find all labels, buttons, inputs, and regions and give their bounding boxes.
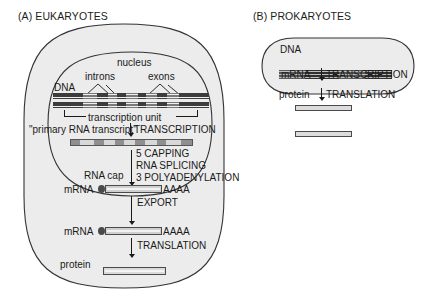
panel-b-title: (B) PROKARYOTES xyxy=(253,10,351,22)
mrna-cytosolic-bar xyxy=(105,227,162,235)
protein-bar-prokaryote xyxy=(295,131,352,137)
dna-label-prokaryote: DNA xyxy=(280,44,301,55)
dna-strand-top xyxy=(53,93,209,99)
mrna-bar-prokaryote xyxy=(295,105,352,111)
rna-processing-arrow xyxy=(131,150,132,186)
nucleus-label: nucleus xyxy=(117,57,151,68)
transcription-arrow-prokaryote xyxy=(321,68,322,81)
translation-step-label-prokaryote: TRANSLATION xyxy=(326,89,395,100)
translation-step-label-eukaryote: TRANSLATION xyxy=(137,240,206,251)
processing-step-polyadenylation: 3 POLYADENYLATION xyxy=(136,172,239,183)
mrna-label-nuclear: mRNA xyxy=(64,184,93,195)
mrna-cytosolic xyxy=(105,227,165,236)
poly-a-tail-cytosolic: AAAA xyxy=(163,226,190,237)
transcription-unit-label: transcription unit xyxy=(88,112,161,123)
protein-bar-eukaryote xyxy=(103,267,166,275)
mrna-nuclear-bar xyxy=(105,185,162,193)
dna-duplex-eukaryote xyxy=(53,93,209,108)
exons-label: exons xyxy=(148,71,175,82)
mrna-label-cytosolic: mRNA xyxy=(64,226,93,237)
translation-arrow-eukaryote xyxy=(131,238,132,258)
dna-label-eukaryote: DNA xyxy=(54,82,75,93)
primary-rna-transcript-label: "primary RNA transcript" xyxy=(29,124,137,135)
translation-arrow-prokaryote xyxy=(321,88,322,101)
transcription-step-label-prokaryote: TRANSCRIPTION xyxy=(326,69,408,80)
protein-label-eukaryote: protein xyxy=(60,259,91,270)
panel-a-title: (A) EUKARYOTES xyxy=(18,10,108,22)
export-step-label: EXPORT xyxy=(137,197,178,208)
processing-step-capping: 5 CAPPING xyxy=(136,148,239,159)
mrna-nuclear xyxy=(105,185,165,194)
poly-a-tail-nuclear: AAAA xyxy=(163,184,190,195)
mrna-label-prokaryote: mRNA xyxy=(281,69,310,80)
introns-label: introns xyxy=(85,71,115,82)
rna-cap-label: RNA cap xyxy=(84,170,123,181)
rna-processing-steps: 5 CAPPING RNA SPLICING 3 POLYADENYLATION xyxy=(136,148,239,183)
transcription-step-label: TRANSCRIPTION xyxy=(134,124,216,135)
processing-step-splicing: RNA SPLICING xyxy=(136,160,239,171)
dna-strand-bottom xyxy=(53,102,209,108)
transcription-arrow xyxy=(130,123,131,137)
export-arrow xyxy=(131,196,132,225)
primary-rna-transcript-bar xyxy=(70,139,193,146)
figure-canvas: (A) EUKARYOTES (B) PROKARYOTES nucleus i… xyxy=(0,0,427,298)
rna-cap-icon-cytosolic xyxy=(98,227,105,235)
rna-cap-icon xyxy=(98,185,105,193)
protein-label-prokaryote: protein xyxy=(279,89,310,100)
